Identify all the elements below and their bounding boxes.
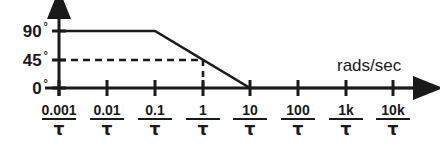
y-axis-label-45: 45° xyxy=(2,49,48,71)
x-tick-label-6-denominator: τ xyxy=(319,120,373,138)
x-tick-label-4: 10 τ xyxy=(223,103,277,138)
x-tick-label-6-numerator: 1k xyxy=(319,103,373,118)
x-tick-label-4-numerator: 10 xyxy=(223,103,277,118)
x-tick-label-3-denominator: τ xyxy=(176,120,230,138)
degree-symbol-icon: ° xyxy=(44,20,48,32)
y-axis-label-0: 0° xyxy=(2,77,48,99)
x-tick-label-0-numerator: 0.001 xyxy=(32,103,86,118)
bode-phase-plot-figure: 90° 45° 0° rads/sec 0.001 τ 0.01 τ 0.1 τ… xyxy=(0,0,440,150)
x-tick-label-1-numerator: 0.01 xyxy=(80,103,134,118)
x-tick-label-7-denominator: τ xyxy=(366,120,420,138)
x-axis-unit-label: rads/sec xyxy=(337,56,401,76)
x-tick-label-3-numerator: 1 xyxy=(176,103,230,118)
x-tick-label-7: 10k τ xyxy=(366,103,420,138)
x-tick-label-2-numerator: 0.1 xyxy=(128,103,182,118)
x-tick-label-6: 1k τ xyxy=(319,103,373,138)
y-axis-label-90: 90° xyxy=(2,20,48,42)
x-tick-label-1: 0.01 τ xyxy=(80,103,134,138)
y-axis-label-45-value: 45 xyxy=(23,51,42,70)
x-tick-label-1-denominator: τ xyxy=(80,120,134,138)
x-tick-label-5-denominator: τ xyxy=(271,120,325,138)
x-tick-label-2: 0.1 τ xyxy=(128,103,182,138)
x-tick-label-0: 0.001 τ xyxy=(32,103,86,138)
y-axis-label-0-value: 0 xyxy=(32,79,41,98)
x-tick-label-7-numerator: 10k xyxy=(366,103,420,118)
x-tick-label-2-denominator: τ xyxy=(128,120,182,138)
x-tick-label-4-denominator: τ xyxy=(223,120,277,138)
degree-symbol-icon: ° xyxy=(44,77,48,89)
x-tick-label-3: 1 τ xyxy=(176,103,230,138)
y-axis-label-90-value: 90 xyxy=(23,22,42,41)
degree-symbol-icon: ° xyxy=(44,49,48,61)
x-tick-label-5: 100 τ xyxy=(271,103,325,138)
x-tick-label-5-numerator: 100 xyxy=(271,103,325,118)
x-tick-label-0-denominator: τ xyxy=(32,120,86,138)
